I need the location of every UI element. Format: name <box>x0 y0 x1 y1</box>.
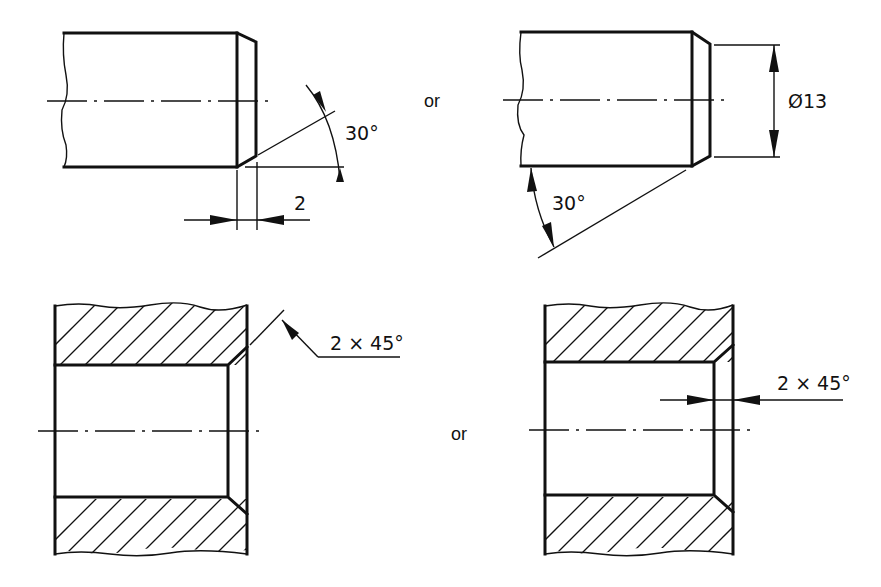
arrow-head <box>733 395 760 405</box>
arrow-head <box>769 130 779 157</box>
break-line <box>518 32 524 166</box>
break-line-bottom <box>545 551 733 556</box>
break-line-top <box>55 303 247 310</box>
section-hatching <box>510 495 790 575</box>
section-hatching <box>510 300 790 380</box>
angle-arc <box>306 85 340 180</box>
arrow-head <box>769 45 779 72</box>
separator-or: or <box>424 91 440 111</box>
arrow-head <box>282 320 299 340</box>
arrow-head <box>527 168 537 192</box>
arrow-head <box>336 168 344 182</box>
arrow-head <box>542 222 554 247</box>
angle-extension-line <box>258 111 335 155</box>
separator-or: or <box>451 424 467 444</box>
leader-extension <box>250 310 284 345</box>
break-line-top <box>545 303 733 310</box>
part-outline <box>55 306 247 554</box>
angle-label: 30° <box>345 122 379 144</box>
break-line <box>62 33 68 167</box>
view-shaft-diameter-chamfer: Ø13 30° <box>503 32 827 258</box>
shaft-outline <box>64 33 256 167</box>
bore-outline <box>545 345 733 512</box>
angle-label: 30° <box>552 192 586 214</box>
arrow-head <box>257 215 284 225</box>
section-hatching <box>20 495 300 575</box>
break-line-bottom <box>55 551 247 556</box>
arrow-head <box>313 91 326 112</box>
arrow-head <box>687 395 714 405</box>
chamfer-callout: 2 × 45° <box>330 332 404 354</box>
section-hatching <box>20 300 300 380</box>
diameter-label: Ø13 <box>788 90 827 112</box>
shaft-outline <box>521 32 710 166</box>
view-bore-leader-chamfer: 2 × 45° <box>20 300 404 575</box>
view-bore-arrow-chamfer: 2 × 45° <box>510 300 851 575</box>
length-label: 2 <box>294 192 306 214</box>
chamfer-drawing: 30° 2 or Ø13 30° <box>0 0 881 587</box>
chamfer-callout: 2 × 45° <box>777 372 851 394</box>
angle-extension-line <box>538 170 686 258</box>
arrow-head <box>210 215 237 225</box>
view-shaft-axial-chamfer: 30° 2 <box>47 33 379 230</box>
